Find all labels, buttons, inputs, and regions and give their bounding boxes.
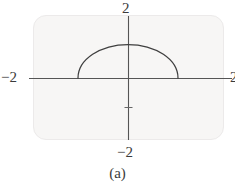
plot-graphics: [0, 0, 235, 189]
x-min-label: −2: [1, 70, 17, 85]
figure-caption: (a): [0, 166, 235, 181]
figure-container: 2 −2 −2 2 (a): [0, 0, 235, 189]
x-max-label: 2: [230, 70, 235, 85]
y-min-label: −2: [0, 145, 235, 160]
y-max-label: 2: [0, 1, 235, 16]
